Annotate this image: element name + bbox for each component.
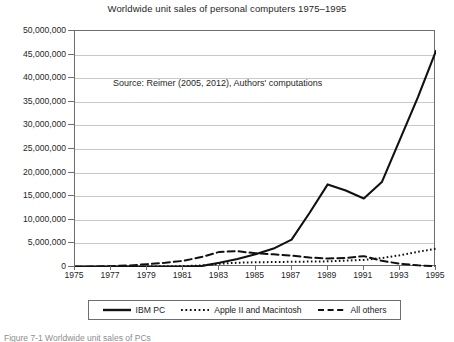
y-axis-tick-label: 15,000,000 — [23, 190, 66, 200]
x-axis-tick-label: 1979 — [137, 270, 156, 280]
legend-item[interactable]: IBM PC — [103, 305, 166, 315]
x-axis-tick-label: 1989 — [317, 270, 336, 280]
y-axis: 05,000,00010,000,00015,000,00020,000,000… — [0, 30, 70, 266]
y-axis-tick-label: 5,000,000 — [28, 237, 66, 247]
y-axis-tick-label: 10,000,000 — [23, 214, 66, 224]
y-axis-tick-label: 25,000,000 — [23, 143, 66, 153]
x-axis-tick-label: 1975 — [64, 270, 83, 280]
y-axis-tick-label: 35,000,000 — [23, 96, 66, 106]
x-axis-tick-label: 1991 — [353, 270, 372, 280]
x-axis-tick-label: 1983 — [209, 270, 228, 280]
x-axis-tick-label: 1987 — [281, 270, 300, 280]
y-axis-tick-label: 30,000,000 — [23, 119, 66, 129]
source-annotation: Source: Reimer (2005, 2012), Authors' co… — [113, 78, 322, 88]
y-axis-tick-label: 20,000,000 — [23, 167, 66, 177]
x-axis-tick-label: 1977 — [101, 270, 120, 280]
x-axis-tick-label: 1993 — [389, 270, 408, 280]
chart-title: Worldwide unit sales of personal compute… — [0, 3, 454, 14]
x-axis-tick-label: 1981 — [173, 270, 192, 280]
chart-legend: IBM PCApple II and MacintoshAll others — [88, 300, 401, 320]
legend-label: All others — [351, 305, 387, 315]
series-lines — [75, 31, 436, 267]
legend-swatch-dashed — [318, 305, 346, 315]
y-axis-tick-label: 50,000,000 — [23, 25, 66, 35]
legend-item[interactable]: Apple II and Macintosh — [181, 305, 301, 315]
x-axis: 1975197719791981198319851987198919911993… — [74, 268, 435, 284]
figure-caption: Figure 7-1 Worldwide unit sales of PCs — [4, 333, 304, 342]
plot-area — [74, 30, 435, 266]
legend-item[interactable]: All others — [318, 305, 387, 315]
x-axis-tick-label: 1995 — [425, 270, 444, 280]
legend-swatch-dotted — [181, 305, 209, 315]
chart-figure: Worldwide unit sales of personal compute… — [0, 0, 454, 342]
legend-label: IBM PC — [136, 305, 166, 315]
x-axis-tick-label: 1985 — [245, 270, 264, 280]
series-line — [75, 251, 436, 267]
legend-swatch-solid — [103, 305, 131, 315]
legend-label: Apple II and Macintosh — [214, 305, 301, 315]
series-line — [75, 249, 436, 267]
y-axis-tick-label: 45,000,000 — [23, 49, 66, 59]
y-axis-tick-label: 40,000,000 — [23, 72, 66, 82]
